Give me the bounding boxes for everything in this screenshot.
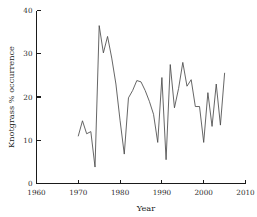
- x-axis-ticks: 196019701980199020002010: [27, 180, 255, 197]
- x-axis-title: Year: [136, 203, 155, 213]
- series-line: [78, 26, 224, 167]
- y-tick-label: 10: [23, 136, 33, 145]
- x-tick-label: 1960: [27, 188, 46, 197]
- x-tick-label: 1970: [69, 188, 88, 197]
- x-tick-label: 1990: [153, 188, 172, 197]
- data-series-group: [78, 26, 224, 167]
- x-tick-label: 1980: [111, 188, 130, 197]
- axes-group: [37, 11, 246, 184]
- y-tick-label: 0: [28, 179, 33, 188]
- line-chart: 196019701980199020002010 010203040 Year …: [0, 0, 257, 217]
- x-tick-label: 2010: [236, 188, 255, 197]
- y-tick-label: 30: [23, 49, 33, 58]
- x-tick-label: 2000: [195, 188, 214, 197]
- y-tick-label: 20: [23, 93, 33, 102]
- y-tick-label: 40: [23, 6, 33, 15]
- y-axis-ticks: 010203040: [23, 6, 40, 188]
- chart-container: 196019701980199020002010 010203040 Year …: [0, 0, 257, 217]
- y-axis-title: Knotgrass % occurrence: [6, 46, 16, 148]
